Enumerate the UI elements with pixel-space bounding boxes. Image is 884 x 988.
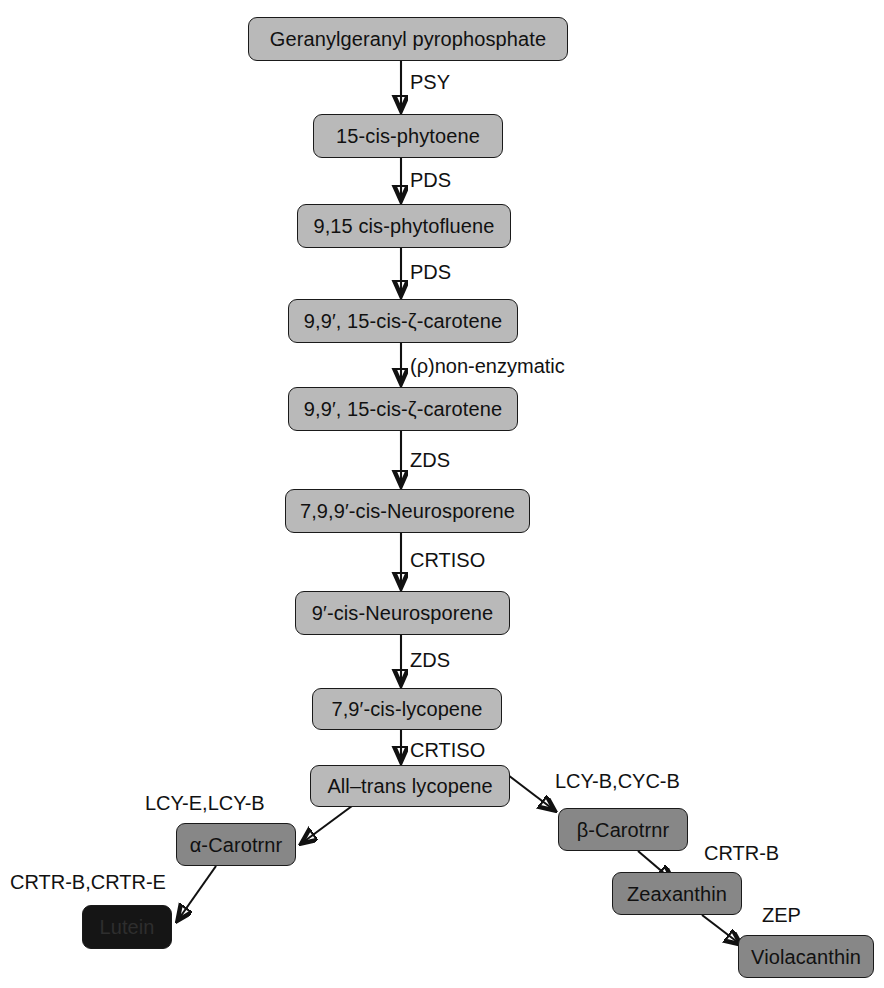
enzyme-label-zds-2: ZDS: [410, 650, 450, 670]
enzyme-label-pds-1: PDS: [410, 170, 451, 190]
node-ggpp[interactable]: Geranylgeranyl pyrophosphate: [248, 17, 568, 61]
enzyme-label-non-enzymatic: (ρ)non-enzymatic: [410, 356, 565, 376]
node-label: 7,9′-cis-lycopene: [331, 699, 482, 719]
enzyme-text: PSY: [410, 71, 450, 93]
enzyme-label-zds-1: ZDS: [410, 450, 450, 470]
node-zeaxanthin[interactable]: Zeaxanthin: [612, 872, 742, 915]
arrow-zeaxanthin-to-violaxanthin: [702, 915, 740, 944]
enzyme-text: ZDS: [410, 449, 450, 471]
arrow-alphacarotene-to-lutein: [178, 866, 216, 920]
node-phytofluene[interactable]: 9,15 cis-phytofluene: [297, 204, 511, 248]
node-label: Violacanthin: [751, 947, 861, 967]
enzyme-text: CRTR-B: [704, 842, 779, 864]
node-label: Zeaxanthin: [627, 884, 727, 904]
enzyme-label-lcyb-cycb: LCY-B,CYC-B: [555, 771, 680, 791]
enzyme-label-crtrb: CRTR-B: [704, 843, 779, 863]
node-zeta-carotene-1[interactable]: 9,9′, 15-cis-ζ-carotene: [288, 299, 518, 343]
node-label: Lutein: [99, 917, 154, 937]
enzyme-text: PDS: [410, 261, 451, 283]
enzyme-text: ZEP: [762, 904, 801, 926]
node-neurosporene-2[interactable]: 9′-cis-Neurosporene: [295, 591, 510, 635]
node-label: 9,15 cis-phytofluene: [313, 216, 494, 236]
node-beta-carotene[interactable]: β-Carotrnr: [558, 808, 688, 851]
node-lutein[interactable]: Lutein: [82, 905, 172, 949]
node-label: α-Carotrnr: [190, 835, 283, 855]
enzyme-text: LCY-E,LCY-B: [145, 792, 265, 814]
node-neurosporene-1[interactable]: 7,9,9′-cis-Neurosporene: [285, 489, 530, 533]
node-all-trans-lycopene[interactable]: All–trans lycopene: [310, 765, 510, 807]
enzyme-text: ZDS: [410, 649, 450, 671]
enzyme-text: PDS: [410, 169, 451, 191]
node-cis-lycopene[interactable]: 7,9′-cis-lycopene: [312, 688, 502, 730]
enzyme-label-crtiso-1: CRTISO: [410, 550, 485, 570]
enzyme-label-pds-2: PDS: [410, 262, 451, 282]
arrow-alltrans-to-betacarotene: [508, 775, 554, 810]
node-zeta-carotene-2[interactable]: 9,9′, 15-cis-ζ-carotene: [288, 387, 518, 431]
node-label: 7,9,9′-cis-Neurosporene: [300, 501, 515, 521]
enzyme-text: (ρ)non-enzymatic: [410, 355, 565, 377]
node-label: 9′-cis-Neurosporene: [312, 603, 493, 623]
enzyme-text: CRTISO: [410, 739, 485, 761]
node-violaxanthin[interactable]: Violacanthin: [738, 935, 874, 978]
node-label: Geranylgeranyl pyrophosphate: [270, 29, 546, 49]
enzyme-text: CRTISO: [410, 549, 485, 571]
node-15-cis-phytoene[interactable]: 15-cis-phytoene: [313, 114, 503, 158]
enzyme-text: CRTR-B,CRTR-E: [10, 871, 166, 893]
node-alpha-carotene[interactable]: α-Carotrnr: [176, 823, 296, 866]
enzyme-text: LCY-B,CYC-B: [555, 770, 680, 792]
pathway-diagram: Geranylgeranyl pyrophosphate 15-cis-phyt…: [0, 0, 884, 988]
node-label: All–trans lycopene: [327, 776, 492, 796]
node-label: β-Carotrnr: [577, 820, 670, 840]
arrow-alltrans-to-alphacarotene: [302, 806, 352, 843]
enzyme-label-crtiso-2: CRTISO: [410, 740, 485, 760]
node-label: 15-cis-phytoene: [336, 126, 480, 146]
enzyme-label-lcye-lcyb: LCY-E,LCY-B: [145, 793, 265, 813]
enzyme-label-psy: PSY: [410, 72, 450, 92]
enzyme-label-crtrb-crtre: CRTR-B,CRTR-E: [10, 872, 166, 892]
node-label: 9,9′, 15-cis-ζ-carotene: [304, 399, 502, 419]
enzyme-label-zep: ZEP: [762, 905, 801, 925]
node-label: 9,9′, 15-cis-ζ-carotene: [304, 311, 502, 331]
